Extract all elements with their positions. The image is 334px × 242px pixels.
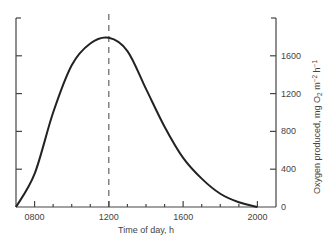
y-axis-label: Oxygen produced, mg O2 m−2 h−1 xyxy=(311,60,323,194)
x-tick-label: 1600 xyxy=(173,212,193,222)
x-tick-label: 1200 xyxy=(99,212,119,222)
x-axis-ticks: 0800120016002000 xyxy=(25,201,268,222)
x-axis-label: Time of day, h xyxy=(118,225,174,235)
oxygen-curve xyxy=(16,38,257,207)
y-tick-label: 400 xyxy=(281,164,296,174)
x-tick-label: 2000 xyxy=(247,212,267,222)
y-axis-ticks: 040080012001600 xyxy=(16,51,301,212)
chart: 0800120016002000 040080012001600 Time of… xyxy=(0,0,334,242)
y-tick-label: 1200 xyxy=(281,89,301,99)
y-tick-label: 1600 xyxy=(281,51,301,61)
x-tick-label: 0800 xyxy=(25,212,45,222)
y-tick-label: 0 xyxy=(281,202,286,212)
y-tick-label: 800 xyxy=(281,126,296,136)
axes-frame xyxy=(16,18,276,207)
